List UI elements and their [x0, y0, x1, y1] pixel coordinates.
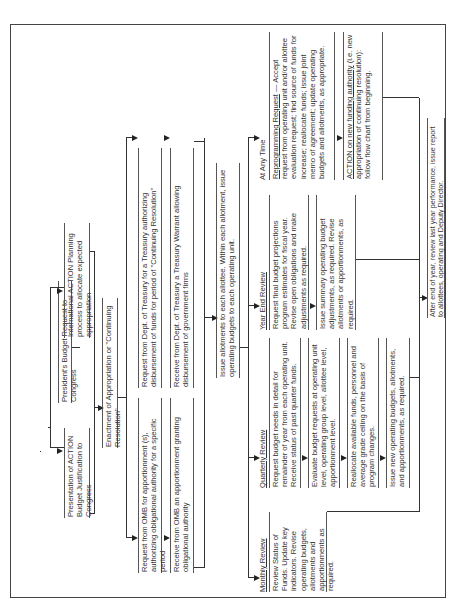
arrow-icon — [132, 135, 138, 141]
node-quarterly-step-3: Reallocate available funds, personnel an… — [347, 338, 379, 488]
node-after-year: After end of year, review last year perf… — [427, 118, 445, 318]
connector — [419, 298, 420, 512]
new-funding-label: ACTION on new funding authority — [345, 65, 354, 179]
connector — [126, 138, 127, 538]
node-year-end-step-1: Request final budget projections program… — [269, 195, 309, 330]
connector — [248, 138, 249, 578]
node-omb-receive: Receive from OMB an apportionment granti… — [170, 398, 194, 573]
flowchart-canvas: President's Budget Request to Congress P… — [10, 24, 446, 598]
node-quarterly-step-2: Evaluate budget requests at operating un… — [308, 338, 340, 488]
connector — [50, 288, 51, 448]
node-quarterly-step-4: Issue new operating budgets, allotments,… — [386, 338, 410, 488]
heading-monthly-review: Monthly Review — [258, 538, 267, 592]
heading-year-end-review: Year End Review — [258, 272, 267, 330]
node-quarterly-step-1: Request budget needs in detail for remai… — [269, 338, 301, 488]
arrow-icon — [164, 135, 170, 141]
node-action-justification: Presentation of ACTION Budget Justificat… — [64, 428, 90, 518]
node-treasury-request: Request from Dept. of Treasury for a Tre… — [138, 148, 162, 388]
connector — [94, 251, 95, 514]
node-issue-allotments: Issue allotments to each allottee. Withi… — [216, 163, 240, 378]
node-omb-request: Request from OMB for apportionment (s), … — [138, 398, 162, 573]
node-treasury-receive: Receive from Dept. of Treasury a Treasur… — [170, 148, 194, 388]
node-new-funding-authority: ACTION on new funding authority (i.e. ne… — [343, 32, 383, 180]
connector — [204, 138, 205, 568]
connector — [72, 347, 80, 348]
node-enactment: Enactment of Appropriation or "Continuin… — [102, 298, 118, 448]
heading-quarterly-review: Quarterly Review — [258, 430, 267, 488]
heading-at-any-time: At Any Time — [258, 139, 267, 180]
node-internal-planning: International ACTION Planning process to… — [64, 223, 90, 338]
arrow-icon — [57, 288, 63, 294]
reprogramming-label: Reprogramming Request — [271, 94, 280, 179]
node-monthly-review: Review Status of Funds. Update key indic… — [269, 512, 327, 592]
node-reprogramming-request: Reprogramming Request — Accept request f… — [269, 32, 335, 180]
node-year-end-step-2: Issue summary operating budget adjustmen… — [316, 195, 356, 330]
arrow-icon — [57, 448, 63, 454]
